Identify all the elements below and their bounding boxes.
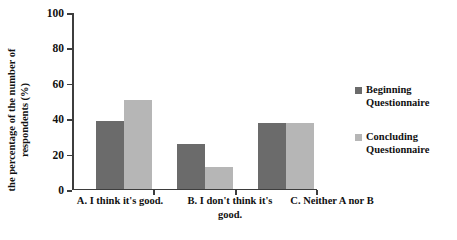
bar-beginning-a <box>96 121 124 188</box>
chart-legend: Beginning Questionnaire Concluding Quest… <box>355 84 455 178</box>
y-tick-label-60: 60 <box>53 78 65 90</box>
plot-area: 100 80 60 40 20 0 <box>72 13 317 190</box>
bar-concluding-c <box>286 123 314 189</box>
y-axis-title-line-1: the percentage of the number of <box>5 5 18 235</box>
x-label-category-0-line-1: A. I think it's good. <box>60 194 180 208</box>
y-tick-20 <box>67 155 72 157</box>
y-axis-title-line-2: respondents (%) <box>18 5 31 235</box>
y-tick-40 <box>67 119 72 121</box>
y-tick-label-100: 100 <box>47 7 64 19</box>
x-axis-labels: A. I think it's good. B. I don't think i… <box>60 194 340 238</box>
y-axis-title: the percentage of the number of responde… <box>0 0 36 240</box>
legend-label-beginning: Beginning Questionnaire <box>366 84 429 109</box>
y-tick-100 <box>67 13 72 15</box>
y-tick-label-20: 20 <box>53 149 65 161</box>
y-tick-label-80: 80 <box>53 42 65 54</box>
legend-label-concluding-line-2: Questionnaire <box>366 144 429 157</box>
legend-swatch-icon-beginning <box>355 87 362 94</box>
legend-label-concluding: Concluding Questionnaire <box>366 131 429 156</box>
legend-label-beginning-line-1: Beginning <box>366 84 429 97</box>
y-tick-0 <box>67 190 72 192</box>
legend-item-beginning-questionnaire: Beginning Questionnaire <box>355 84 455 109</box>
bar-concluding-a <box>124 100 152 189</box>
legend-label-beginning-line-2: Questionnaire <box>366 97 429 110</box>
legend-item-concluding-questionnaire: Concluding Questionnaire <box>355 131 455 156</box>
bar-beginning-b <box>177 144 205 188</box>
x-label-category-1: B. I don't think it's good. <box>178 194 282 222</box>
legend-label-concluding-line-1: Concluding <box>366 131 429 144</box>
bar-beginning-c <box>258 123 286 189</box>
bar-concluding-b <box>205 167 233 188</box>
x-label-category-2: C. Neither A nor B <box>278 194 386 208</box>
legend-swatch-icon-concluding <box>355 134 362 141</box>
x-label-category-1-line-1: B. I don't think it's <box>178 194 282 208</box>
x-label-category-2-line-1: C. Neither A nor B <box>278 194 386 208</box>
y-axis-line <box>72 13 74 190</box>
x-label-category-0: A. I think it's good. <box>60 194 180 208</box>
y-tick-60 <box>67 84 72 86</box>
y-tick-80 <box>67 48 72 50</box>
x-label-category-1-line-2: good. <box>178 208 282 222</box>
x-axis-line <box>72 189 317 191</box>
y-tick-label-40: 40 <box>53 113 65 125</box>
